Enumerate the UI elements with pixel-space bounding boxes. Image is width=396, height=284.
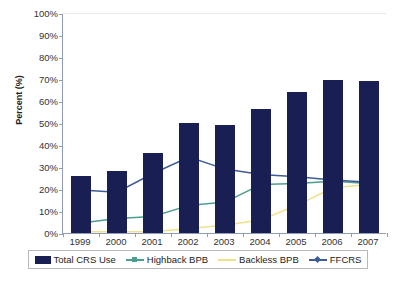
bar-2001 — [143, 153, 163, 233]
legend-item-total-crs-use[interactable]: Total CRS Use — [35, 254, 116, 265]
y-tick-label: 100% — [16, 9, 58, 19]
x-tick-mark — [387, 233, 388, 237]
legend-item-highback-bpb[interactable]: Highback BPB — [126, 254, 208, 265]
legend-bar-swatch-icon — [35, 256, 51, 264]
bar-2004 — [251, 109, 271, 233]
y-axis-tick-labels: 100%90%80%70%60%50%40%30%20%10%0% — [14, 0, 58, 284]
x-tick-label-2007: 2007 — [350, 236, 386, 247]
legend-item-ffcrs[interactable]: FFCRS — [309, 254, 362, 265]
bar-2007 — [359, 81, 379, 233]
x-tick-label-2001: 2001 — [134, 236, 170, 247]
bar-2006 — [323, 80, 343, 233]
y-tick-mark — [59, 146, 63, 147]
y-tick-mark — [59, 124, 63, 125]
y-tick-label: 0% — [16, 229, 58, 239]
legend-line-swatch-icon — [126, 255, 144, 264]
bar-2002 — [179, 123, 199, 233]
y-tick-label: 30% — [16, 163, 58, 173]
y-tick-label: 60% — [16, 97, 58, 107]
y-tick-label: 50% — [16, 119, 58, 129]
y-tick-mark — [59, 102, 63, 103]
x-tick-label-2005: 2005 — [278, 236, 314, 247]
x-tick-label-2006: 2006 — [314, 236, 350, 247]
x-tick-label-1999: 1999 — [62, 236, 98, 247]
legend-item-backless-bpb[interactable]: Backless BPB — [218, 254, 299, 265]
bar-1999 — [71, 176, 91, 233]
y-tick-label: 20% — [16, 185, 58, 195]
y-tick-mark — [59, 14, 63, 15]
legend-label: Total CRS Use — [54, 254, 116, 265]
legend-line-swatch-icon — [218, 255, 236, 264]
y-tick-mark — [59, 190, 63, 191]
y-tick-label: 80% — [16, 53, 58, 63]
bar-2000 — [107, 171, 127, 233]
x-tick-label-2003: 2003 — [206, 236, 242, 247]
y-tick-mark — [59, 168, 63, 169]
y-tick-mark — [59, 36, 63, 37]
x-tick-label-2000: 2000 — [98, 236, 134, 247]
legend-line-swatch-icon — [309, 255, 327, 264]
y-tick-mark — [59, 80, 63, 81]
bar-2003 — [215, 125, 235, 233]
x-tick-label-2004: 2004 — [242, 236, 278, 247]
x-tick-label-2002: 2002 — [170, 236, 206, 247]
y-tick-label: 70% — [16, 75, 58, 85]
legend-label: Backless BPB — [239, 254, 299, 265]
legend-label: FFCRS — [330, 254, 362, 265]
y-tick-label: 40% — [16, 141, 58, 151]
y-tick-label: 10% — [16, 207, 58, 217]
y-tick-mark — [59, 58, 63, 59]
chart-legend: Total CRS UseHighback BPBBackless BPBFFC… — [28, 250, 368, 269]
legend-label: Highback BPB — [147, 254, 208, 265]
bar-2005 — [287, 92, 307, 233]
y-tick-mark — [59, 212, 63, 213]
plot-area — [62, 14, 386, 234]
y-tick-label: 90% — [16, 31, 58, 41]
chart-container: Percent (%) 100%90%80%70%60%50%40%30%20%… — [0, 0, 396, 284]
